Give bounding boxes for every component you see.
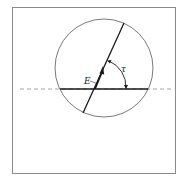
- diagram-canvas: E τ: [0, 0, 188, 185]
- E-label-leader: [90, 81, 96, 83]
- tau-label: τ: [121, 64, 127, 74]
- tilted-diameter-line: [83, 23, 124, 113]
- frame: [13, 8, 176, 174]
- E-vector-arrow: [95, 72, 102, 89]
- E-label: E: [83, 76, 91, 86]
